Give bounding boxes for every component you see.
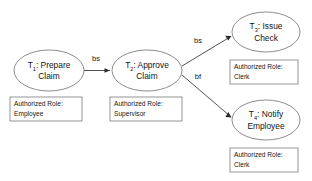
role-box-t2-line1: Authorized Role: (114, 100, 163, 107)
role-box-t3-line1: Authorized Role: (234, 63, 283, 70)
node-t2-title-line2: Claim (136, 71, 157, 81)
edge-label-t2-t4: bf (195, 72, 202, 81)
role-box-t4: Authorized Role: Clerk (230, 148, 298, 172)
node-t3[interactable]: T3: Issue Check (232, 12, 300, 52)
edge-label-t1-t2: bs (92, 54, 100, 63)
node-t1[interactable]: T1: Prepare Claim (14, 50, 84, 91)
role-box-t4-line1: Authorized Role: (234, 151, 283, 158)
role-box-t1: Authorized Role: Employee (10, 97, 82, 121)
arrowhead-t2-t3 (225, 36, 231, 41)
edge-line-t2-t4 (182, 75, 230, 116)
edge-t1-to-t2: bs (84, 54, 110, 73)
role-box-t1-line1: Authorized Role: (14, 100, 63, 107)
role-box-t4-line2: Clerk (234, 161, 250, 168)
node-t3-title-line2: Check (254, 33, 279, 43)
edge-t2-to-t3: bs (182, 36, 232, 66)
node-t1-title-line2: Claim (38, 71, 59, 81)
task-flow-diagram: bs bs bf T1: Prepare Claim Authorized Ro… (0, 0, 312, 181)
role-box-t2: Authorized Role: Supervisor (110, 97, 182, 121)
role-box-t3-line2: Clerk (234, 73, 250, 80)
diagram-canvas: bs bs bf T1: Prepare Claim Authorized Ro… (0, 0, 312, 181)
node-t3-title-line1: T3: Issue (250, 21, 283, 33)
role-box-t1-line2: Employee (14, 110, 44, 118)
role-box-t3: Authorized Role: Clerk (230, 60, 298, 84)
edge-label-t2-t3: bs (194, 36, 202, 45)
edge-line-t2-t3 (182, 37, 230, 66)
node-t4-title-line2: Employee (247, 121, 285, 131)
node-t4[interactable]: T4: Notify Employee (232, 100, 300, 140)
node-t2[interactable]: T2: Approve Claim (112, 50, 182, 91)
edge-t2-to-t4: bf (182, 72, 232, 117)
arrowhead-t1-t2 (105, 68, 111, 73)
role-box-t2-line2: Supervisor (114, 110, 146, 118)
